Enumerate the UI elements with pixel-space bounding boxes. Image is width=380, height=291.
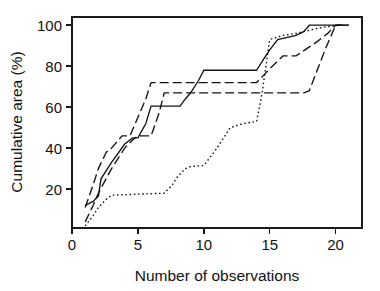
- y-tick-label: 100: [37, 17, 62, 34]
- y-tick-label: 20: [45, 181, 62, 198]
- x-tick-marks: [72, 228, 336, 234]
- x-tick-label: 10: [195, 236, 212, 253]
- x-tick-label: 20: [327, 236, 344, 253]
- curve-dotted: [85, 25, 341, 226]
- y-tick-label: 60: [45, 99, 62, 116]
- curve-dashed-upper: [85, 25, 349, 207]
- curve-dashed-lower: [85, 25, 349, 222]
- y-tick-label: 40: [45, 140, 62, 157]
- y-tick-marks: [66, 25, 72, 189]
- y-tick-labels: 20406080100: [37, 17, 62, 198]
- x-tick-label: 5: [134, 236, 142, 253]
- x-tick-label: 0: [68, 236, 76, 253]
- series-group: [85, 25, 349, 226]
- x-tick-label: 15: [261, 236, 278, 253]
- x-axis-title: Number of observations: [135, 267, 300, 284]
- plot-frame: [72, 17, 362, 228]
- y-tick-label: 80: [45, 58, 62, 75]
- cumulative-area-chart: 20406080100 05101520 Number of observati…: [0, 0, 380, 291]
- curve-solid: [85, 25, 349, 205]
- y-axis-title: Cumulative area (%): [8, 51, 25, 192]
- x-tick-labels: 05101520: [68, 236, 344, 253]
- figure-container: 20406080100 05101520 Number of observati…: [0, 0, 380, 291]
